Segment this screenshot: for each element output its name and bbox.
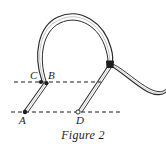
strap-d-to-junction bbox=[78, 66, 111, 112]
point-label-b: B bbox=[48, 70, 55, 81]
point-label-d: D bbox=[76, 115, 84, 126]
tail bbox=[111, 64, 166, 95]
point-C bbox=[39, 80, 43, 84]
strap-a-to-b bbox=[24, 83, 47, 112]
point-B bbox=[44, 81, 48, 85]
point-markers bbox=[23, 80, 80, 114]
point-label-a: A bbox=[19, 115, 26, 126]
point-label-c: C bbox=[30, 70, 37, 81]
junction-point bbox=[106, 61, 114, 69]
figure-caption: Figure 2 bbox=[0, 128, 166, 143]
figure-2-diagram: C B A D Figure 2 bbox=[0, 0, 166, 150]
